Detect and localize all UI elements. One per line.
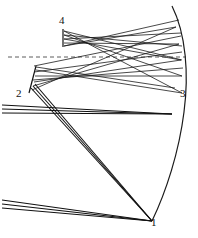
label-4: 4 (59, 14, 65, 26)
ray-diagram-svg: 1 2 3 4 (0, 0, 198, 238)
ray-segment (34, 52, 182, 72)
label-1: 1 (151, 216, 157, 228)
ray-segment (34, 60, 181, 82)
label-2: 2 (16, 87, 22, 99)
ray-bundle-mid-left-input (2, 105, 172, 114)
ray-segment (2, 204, 152, 221)
ray-segment (35, 84, 152, 221)
ray-bundle-lower-left-input (2, 200, 152, 221)
label-3: 3 (180, 87, 186, 99)
optical-diagram-canvas: 1 2 3 4 (0, 0, 198, 238)
ray-segment (64, 33, 181, 39)
ray-segment (34, 36, 181, 66)
ray-bundle-vertex1-to-mirror2 (31, 84, 152, 221)
